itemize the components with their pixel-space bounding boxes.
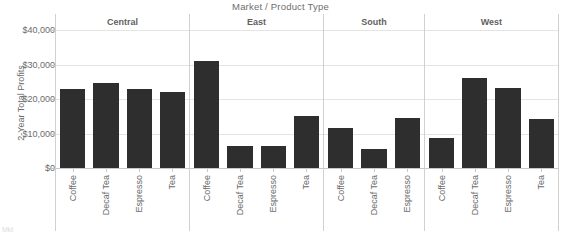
label-slot: Tea <box>156 173 189 231</box>
tick-mark <box>172 168 173 172</box>
bar-slot <box>257 30 290 168</box>
bar-slot <box>391 30 424 168</box>
category-label: Decaf Tea <box>101 175 110 215</box>
category-label: Coffee <box>68 175 77 201</box>
tick-mark <box>139 168 140 172</box>
label-slot: Coffee <box>324 173 357 231</box>
tick-mark <box>475 168 476 172</box>
label-slot: Decaf Tea <box>458 173 491 231</box>
panel-header-label: West <box>481 17 502 27</box>
panel-header-east: East <box>189 14 323 30</box>
tick-mark <box>508 168 509 172</box>
bar-south-coffee[interactable] <box>328 128 353 168</box>
panel-header-label: Central <box>107 17 138 27</box>
label-panel: CoffeeDecaf TeaEspressoTea <box>189 173 323 231</box>
bar-central-coffee[interactable] <box>60 89 85 168</box>
tick-mark <box>207 168 208 172</box>
category-label-band: CoffeeDecaf TeaEspressoTeaCoffeeDecaf Te… <box>55 173 559 231</box>
bar-south-decaf-tea[interactable] <box>361 149 386 168</box>
label-slot: Coffee <box>425 173 458 231</box>
category-label: Espresso <box>504 175 513 213</box>
panel-west <box>424 30 559 168</box>
label-slot: Decaf Tea <box>89 173 122 231</box>
plot-area <box>55 30 559 168</box>
label-panel: CoffeeDecaf TeaEspressoTea <box>424 173 559 231</box>
panel-columns <box>55 30 559 168</box>
panel-header-band: CentralEastSouthWest <box>55 14 559 30</box>
category-label: Espresso <box>269 175 278 213</box>
y-tick-label: $30,000 <box>5 60 55 70</box>
label-slot: Espresso <box>491 173 524 231</box>
tick-mark <box>73 168 74 172</box>
panel-header-south: South <box>323 14 424 30</box>
y-tick-label: $20,000 <box>5 94 55 104</box>
bar-slot <box>290 30 323 168</box>
bar-east-espresso[interactable] <box>261 146 286 168</box>
label-slot: Coffee <box>190 173 223 231</box>
chart-title: Market / Product Type <box>0 1 561 12</box>
y-tick-label: $40,000 <box>5 25 55 35</box>
label-slot: Espresso <box>123 173 156 231</box>
bar-slot <box>491 30 524 168</box>
bar-slot <box>223 30 256 168</box>
tick-mark <box>306 168 307 172</box>
category-label: Espresso <box>135 175 144 213</box>
bar-slot <box>458 30 491 168</box>
tick-mark <box>341 168 342 172</box>
bar-slot <box>190 30 223 168</box>
panel-header-label: East <box>247 17 266 27</box>
bar-slot <box>123 30 156 168</box>
bar-slot <box>357 30 390 168</box>
bar-east-tea[interactable] <box>294 116 319 168</box>
bar-central-espresso[interactable] <box>127 89 152 168</box>
footer-artifact: Mkt <box>2 226 13 233</box>
category-label: Tea <box>302 175 311 190</box>
bar-east-coffee[interactable] <box>194 61 219 168</box>
tick-mark <box>374 168 375 172</box>
bar-central-decaf-tea[interactable] <box>93 83 118 168</box>
y-tick-label: $10,000 <box>5 129 55 139</box>
chart-container: Market / Product Type CentralEastSouthWe… <box>0 0 561 233</box>
tick-mark <box>273 168 274 172</box>
label-slot: Decaf Tea <box>223 173 256 231</box>
label-slot: Tea <box>290 173 323 231</box>
category-label: Tea <box>168 175 177 190</box>
bar-slot <box>89 30 122 168</box>
panel-east <box>189 30 323 168</box>
y-tick-label: $0 <box>5 163 55 173</box>
label-slot: Espresso <box>391 173 424 231</box>
bar-west-espresso[interactable] <box>495 88 520 168</box>
y-axis: 2-Year Total Profits $40,000$30,000$20,0… <box>0 0 55 233</box>
panel-header-label: South <box>361 17 387 27</box>
label-slot: Tea <box>525 173 558 231</box>
tick-mark <box>541 168 542 172</box>
category-label: Decaf Tea <box>235 175 244 215</box>
tick-mark <box>407 168 408 172</box>
bar-slot <box>56 30 89 168</box>
panel-header-central: Central <box>55 14 189 30</box>
bar-south-espresso[interactable] <box>395 118 420 168</box>
category-label: Tea <box>537 175 546 190</box>
bar-slot <box>425 30 458 168</box>
y-axis-line <box>55 14 56 173</box>
bar-slot <box>324 30 357 168</box>
bar-west-coffee[interactable] <box>429 138 454 168</box>
bar-central-tea[interactable] <box>160 92 185 168</box>
bar-east-decaf-tea[interactable] <box>227 146 252 168</box>
panel-south <box>323 30 424 168</box>
category-label: Decaf Tea <box>370 175 379 215</box>
label-slot: Coffee <box>56 173 89 231</box>
category-label: Coffee <box>336 175 345 201</box>
tick-mark <box>106 168 107 172</box>
label-slot: Decaf Tea <box>357 173 390 231</box>
bar-slot <box>156 30 189 168</box>
panel-header-west: West <box>424 14 559 30</box>
panel-central <box>55 30 189 168</box>
label-panel: CoffeeDecaf TeaEspresso <box>323 173 424 231</box>
bar-west-tea[interactable] <box>529 119 554 168</box>
category-label: Espresso <box>403 175 412 213</box>
category-label: Coffee <box>437 175 446 201</box>
bar-west-decaf-tea[interactable] <box>462 78 487 168</box>
tick-mark <box>442 168 443 172</box>
bar-slot <box>525 30 558 168</box>
